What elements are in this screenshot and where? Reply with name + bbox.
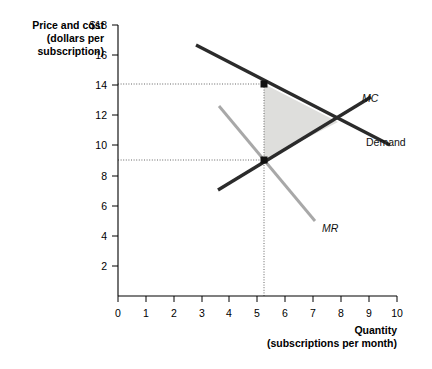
mr-curve-label: MR [322, 222, 339, 234]
x-tick-label-10: 10 [391, 307, 403, 319]
demand-curve-label: Demand [366, 136, 406, 148]
mc-curve-label: MC [362, 92, 379, 104]
y-axis-title-line-2: (dollars per [47, 32, 104, 44]
x-tick-label-5: 5 [254, 307, 260, 319]
equilibrium-point-marker [261, 157, 268, 164]
y-tick-label-14: 14 [95, 79, 107, 91]
y-tick-label-6: 6 [101, 200, 107, 212]
x-tick-label-0: 0 [115, 307, 121, 319]
y-tick-label-8: 8 [101, 170, 107, 182]
x-axis-title-line-2: (subscriptions per month) [267, 337, 397, 349]
y-axis-ticks [112, 25, 118, 266]
price-point-marker [261, 81, 268, 88]
y-axis-title-line-3: subscription) [37, 45, 104, 57]
monopoly-chart: $18 16 14 12 10 8 6 4 2 0 1 2 3 4 5 6 7 … [0, 0, 432, 369]
x-tick-label-3: 3 [199, 307, 205, 319]
x-tick-label-6: 6 [282, 307, 288, 319]
y-axis-title-line-1: Price and cost [32, 19, 104, 31]
y-tick-label-10: 10 [95, 139, 107, 151]
x-axis-title-line-1: Quantity [354, 324, 397, 336]
x-tick-label-2: 2 [171, 307, 177, 319]
x-tick-label-8: 8 [338, 307, 344, 319]
x-tick-label-7: 7 [310, 307, 316, 319]
x-axis-ticks [118, 296, 397, 302]
x-tick-label-1: 1 [143, 307, 149, 319]
y-tick-label-4: 4 [101, 230, 107, 242]
y-tick-label-12: 12 [95, 109, 107, 121]
x-tick-label-4: 4 [226, 307, 232, 319]
chart-canvas: $18 16 14 12 10 8 6 4 2 0 1 2 3 4 5 6 7 … [0, 0, 432, 369]
x-tick-label-9: 9 [366, 307, 372, 319]
y-tick-label-2: 2 [101, 260, 107, 272]
